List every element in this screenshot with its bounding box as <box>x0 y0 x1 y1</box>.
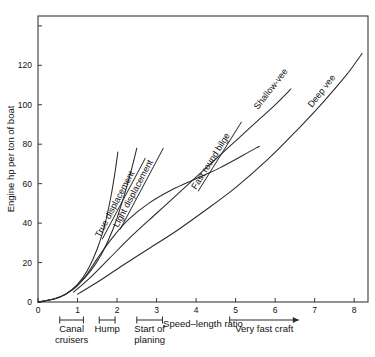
annotation-start-of-planing: Start ofplaning <box>134 317 165 346</box>
y-tick-label: 0 <box>27 297 32 307</box>
chart-figure: 020406080100120 012345678 Engine hp per … <box>0 0 375 357</box>
y-tick-label: 80 <box>23 139 33 149</box>
x-tick-label: 7 <box>312 305 317 315</box>
plot-frame <box>38 16 368 302</box>
annotation-text-hump-0: Hump <box>94 323 119 334</box>
curve-label-fast-round-bilge: Fast round bilge <box>189 116 241 191</box>
curve-label-text-fast-round-bilge: Fast round bilge <box>189 131 232 191</box>
y-axis-title: Engine hp per ton of boat <box>5 105 16 212</box>
curve-shallow-vee <box>74 89 291 292</box>
annotation-text-start-of-planing-0: Start of <box>134 323 165 334</box>
y-tick-label: 40 <box>23 218 33 228</box>
x-tick-label: 2 <box>115 305 120 315</box>
x-tick-label: 3 <box>154 305 159 315</box>
annotation-text-canal-cruisers-0: Canal <box>59 323 84 334</box>
x-tick-label: 4 <box>194 305 199 315</box>
y-tick-label: 60 <box>23 179 33 189</box>
x-tick-label: 5 <box>233 305 238 315</box>
annotation-arrowhead-very-fast-craft <box>293 317 299 323</box>
y-tick-label: 120 <box>18 60 32 70</box>
x-axis-tick-labels: 012345678 <box>36 305 357 315</box>
annotation-text-start-of-planing-1: planing <box>134 334 165 345</box>
y-axis-tick-labels: 020406080100120 <box>18 60 32 307</box>
y-axis-ticks <box>38 26 42 302</box>
y-tick-label: 100 <box>18 100 32 110</box>
annotation-canal-cruisers: Canalcruisers <box>55 317 89 346</box>
annotation-text-canal-cruisers-1: cruisers <box>55 334 89 345</box>
x-tick-label: 0 <box>36 305 41 315</box>
annotation-text-very-fast-craft-0: Very fast craft <box>235 323 293 334</box>
curve-label-text-shallow-vee: Shallow-vee <box>252 66 290 111</box>
x-tick-label: 6 <box>273 305 278 315</box>
annotation-hump: Hump <box>94 317 119 335</box>
x-tick-label: 8 <box>352 305 357 315</box>
x-axis-ticks <box>38 298 354 302</box>
curve-label-group: True displacementLight displacementFast … <box>93 66 337 239</box>
speed-length-ratio-chart: 020406080100120 012345678 Engine hp per … <box>0 0 375 357</box>
y-tick-label: 20 <box>23 258 33 268</box>
curve-label-shallow-vee: Shallow-vee <box>252 66 290 111</box>
x-tick-label: 1 <box>75 305 80 315</box>
leader-line-fast-round-bilge <box>198 122 241 192</box>
